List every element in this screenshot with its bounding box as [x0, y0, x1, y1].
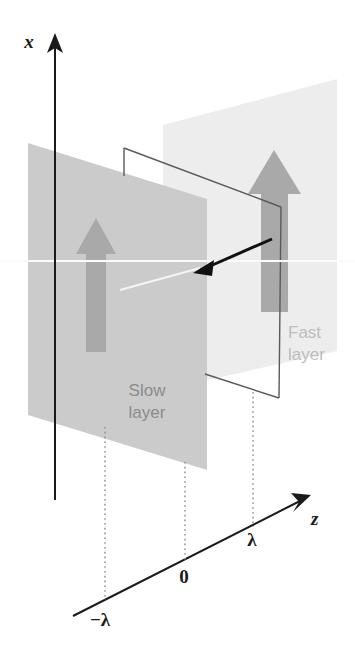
tick-label-minus-lambda: −λ	[90, 609, 111, 630]
x-axis-label: x	[23, 31, 34, 52]
layer-diagram-svg: x z −λ 0 λ Slow layer Fast layer	[0, 0, 355, 656]
fast-layer-label-line2: layer	[288, 345, 325, 364]
z-axis	[73, 493, 311, 616]
slow-layer-label-line2: layer	[129, 403, 166, 422]
diagram-root: x z −λ 0 λ Slow layer Fast layer	[0, 0, 355, 656]
tick-label-lambda: λ	[247, 529, 257, 550]
fast-layer-label-line1: Fast	[288, 323, 321, 342]
tick-label-zero: 0	[179, 566, 189, 587]
slow-layer-label-line1: Slow	[129, 381, 167, 400]
z-axis-label: z	[310, 508, 319, 529]
